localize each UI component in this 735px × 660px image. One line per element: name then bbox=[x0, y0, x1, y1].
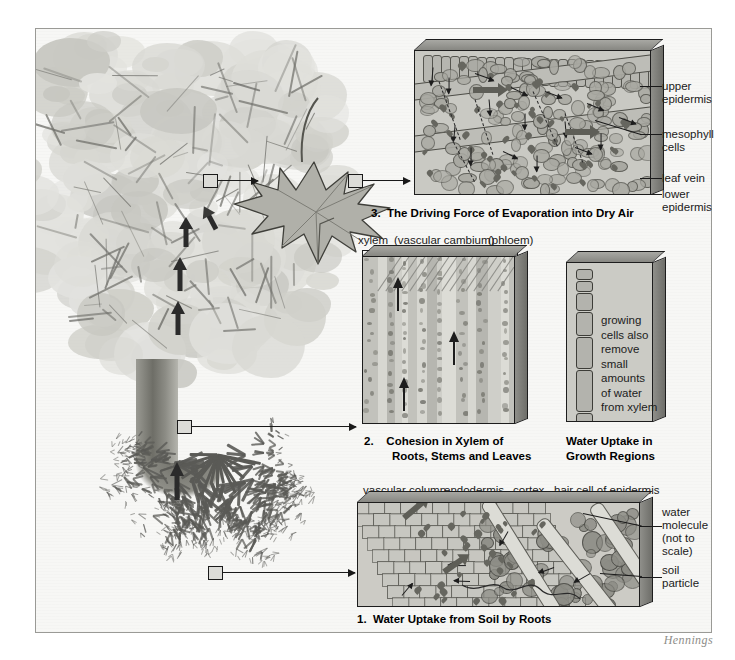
artist-signature: Hennings bbox=[664, 633, 713, 648]
root-branch bbox=[303, 520, 306, 525]
mesophyll-cell bbox=[557, 162, 569, 177]
xylem-content-granule bbox=[388, 371, 392, 376]
root-branch bbox=[275, 463, 284, 466]
xylem-content-granule bbox=[371, 298, 376, 303]
xylem-content-granule bbox=[402, 267, 405, 270]
growing-xylem-cell bbox=[576, 370, 593, 412]
xylem-content-granule bbox=[479, 349, 484, 354]
foliage-blob bbox=[140, 88, 217, 134]
xylem-content-granule bbox=[480, 362, 484, 368]
arrow-stem bbox=[453, 341, 456, 365]
xylem-content-granule bbox=[477, 370, 482, 374]
root-branch bbox=[252, 557, 253, 564]
root-branch bbox=[154, 508, 159, 510]
leaf-stalk bbox=[296, 96, 322, 166]
tree-trunk-and-roots bbox=[136, 359, 296, 629]
mesophyll-cell bbox=[622, 62, 635, 74]
leader-soil-particle bbox=[640, 577, 662, 578]
xylem-content-granule bbox=[420, 347, 425, 350]
panel-leaf-front-face bbox=[414, 50, 651, 195]
root-branch bbox=[178, 538, 179, 544]
mesophyll-cell bbox=[458, 181, 476, 195]
xylem-content-granule bbox=[420, 308, 423, 313]
soil-particle-shape bbox=[586, 549, 596, 558]
leader-root-to-panel1 bbox=[223, 572, 355, 573]
xylem-content-granule bbox=[438, 411, 442, 416]
leader-leaf-to-panel3 bbox=[363, 180, 410, 181]
xylem-content-granule bbox=[402, 360, 406, 364]
label-upper-epidermis: upper epidermis bbox=[662, 80, 712, 106]
xylem-content-granule bbox=[370, 391, 374, 396]
xylem-content-granule bbox=[479, 378, 483, 383]
xylem-content-granule bbox=[389, 257, 394, 262]
xylem-content-granule bbox=[422, 328, 426, 332]
xylem-content-granule bbox=[419, 322, 423, 325]
leader-lower-epidermis bbox=[640, 194, 662, 195]
foliage-blob bbox=[306, 272, 339, 290]
root-branch bbox=[104, 489, 110, 490]
root-branch bbox=[110, 452, 115, 455]
xylem-content-granule bbox=[403, 331, 407, 335]
panel-growth-top-face bbox=[566, 251, 665, 262]
root-branch bbox=[114, 460, 119, 462]
mesophyll-cell bbox=[584, 65, 597, 78]
panel-root-uptake bbox=[357, 502, 640, 607]
root-branch bbox=[219, 539, 222, 545]
root-branch bbox=[256, 529, 261, 530]
xylem-content-granule bbox=[387, 398, 391, 403]
soil-particle-shape bbox=[570, 512, 586, 528]
root-branch bbox=[223, 537, 224, 542]
leader-trunk-to-panel2 bbox=[192, 426, 356, 427]
root-branch bbox=[130, 513, 135, 515]
xylem-content-granule bbox=[437, 348, 441, 352]
root-branch bbox=[278, 447, 283, 451]
mesophyll-cell bbox=[496, 180, 514, 195]
xylem-content-granule bbox=[388, 331, 394, 336]
mesophyll-cell bbox=[554, 81, 571, 91]
xylem-content-granule bbox=[503, 308, 508, 313]
mesophyll-cell bbox=[420, 92, 437, 105]
xylem-content-granule bbox=[364, 369, 368, 373]
root-branch bbox=[273, 537, 277, 543]
evaporation-arrow bbox=[470, 148, 471, 166]
panel-leaf-evaporation bbox=[414, 50, 651, 195]
mesophyll-cell bbox=[612, 182, 630, 195]
panel-leaf-top-face bbox=[414, 39, 663, 50]
root-branch bbox=[162, 501, 169, 502]
xylem-content-granule bbox=[459, 367, 463, 370]
callout-box-branch[interactable] bbox=[203, 174, 218, 188]
mesophyll-cell bbox=[540, 183, 550, 195]
xylem-content-granule bbox=[367, 322, 372, 325]
label-water-molecule: water molecule (not to scale) bbox=[662, 506, 708, 558]
xylem-strand bbox=[363, 257, 379, 423]
xylem-content-granule bbox=[482, 341, 486, 345]
flow-arrow-canopy-lower bbox=[171, 301, 185, 335]
xylem-content-granule bbox=[418, 388, 422, 392]
evaporation-arrow bbox=[524, 114, 525, 130]
xylem-content-granule bbox=[462, 393, 466, 398]
mesophyll-cell bbox=[490, 64, 507, 73]
xylem-content-granule bbox=[504, 300, 509, 304]
root-branch bbox=[113, 475, 118, 476]
evaporation-arrow bbox=[600, 134, 601, 150]
root-branch bbox=[284, 433, 289, 436]
callout-box-trunk[interactable] bbox=[177, 420, 192, 434]
xylem-content-granule bbox=[364, 258, 369, 261]
xylem-content-granule bbox=[437, 387, 441, 392]
root-branch bbox=[157, 532, 162, 535]
xylem-content-granule bbox=[462, 343, 466, 347]
leader-upper-epidermis bbox=[640, 86, 662, 87]
root-branch bbox=[132, 486, 138, 487]
callout-box-leaf[interactable] bbox=[348, 174, 363, 188]
root-branch bbox=[277, 435, 284, 439]
label-lower-epidermis: lower epidermis bbox=[662, 188, 712, 214]
xylem-content-granule bbox=[389, 389, 394, 394]
xylem-content-granule bbox=[421, 379, 425, 383]
xylem-content-granule bbox=[482, 398, 485, 403]
caption-panel-1: 1. Water Uptake from Soil by Roots bbox=[357, 612, 551, 626]
mesophyll-cell bbox=[587, 179, 599, 192]
callout-box-root[interactable] bbox=[208, 566, 223, 580]
panel-root-side-face bbox=[640, 497, 653, 607]
xylem-content-granule bbox=[476, 300, 481, 306]
root-branch bbox=[230, 552, 234, 556]
